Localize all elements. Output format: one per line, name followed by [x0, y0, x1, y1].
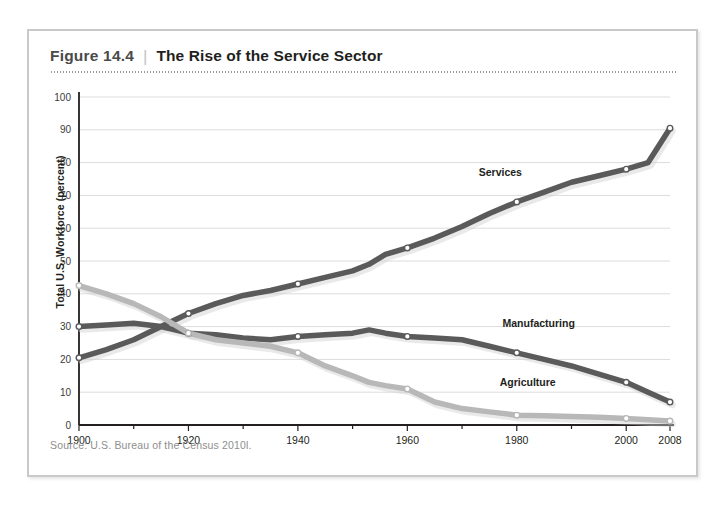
series-shadow-agriculture: [82, 289, 673, 424]
x-tick-label: 2008: [658, 434, 682, 446]
y-axis-title: Total U.S. Workforce (percent): [54, 137, 66, 327]
y-tick-label: 100: [54, 92, 71, 103]
data-point-marker: [514, 199, 520, 205]
chart-plot-area: Total U.S. Workforce (percent) 010203040…: [29, 31, 700, 479]
data-point-marker: [623, 380, 629, 386]
data-point-marker: [514, 412, 520, 418]
series-line-agriculture: [79, 286, 670, 421]
data-point-marker: [76, 324, 82, 330]
x-tick-label: 1940: [286, 434, 310, 446]
series-shadow-manufacturing: [82, 326, 673, 405]
data-point-marker: [667, 418, 673, 424]
data-point-marker: [76, 283, 82, 289]
data-point-marker: [405, 386, 411, 392]
data-point-marker: [295, 281, 301, 287]
data-point-marker: [76, 355, 82, 361]
data-point-marker: [295, 334, 301, 340]
y-tick-label: 90: [60, 124, 72, 135]
series-label-services: Services: [479, 166, 522, 178]
data-point-marker: [667, 125, 673, 131]
data-point-marker: [295, 350, 301, 356]
series-label-agriculture: Agriculture: [500, 376, 556, 388]
data-point-marker: [186, 311, 192, 317]
figure-panel: Figure 14.4 | The Rise of the Service Se…: [27, 29, 698, 477]
y-tick-label: 20: [60, 354, 72, 365]
source-note: Source: U.S. Bureau of the Census 2010l.: [50, 439, 252, 451]
data-point-marker: [405, 245, 411, 251]
x-tick-label: 1960: [396, 434, 420, 446]
x-tick-label: 1980: [505, 434, 529, 446]
y-tick-label: 0: [65, 420, 71, 431]
y-tick-label: 10: [60, 387, 72, 398]
series-label-manufacturing: Manufacturing: [502, 317, 574, 329]
data-point-marker: [623, 416, 629, 422]
data-point-marker: [405, 334, 411, 340]
data-point-marker: [186, 330, 192, 336]
line-chart-svg: 0102030405060708090100190019201940196019…: [29, 31, 700, 479]
x-tick-label: 2000: [615, 434, 639, 446]
data-point-marker: [667, 399, 673, 405]
data-point-marker: [514, 350, 520, 356]
data-point-marker: [623, 166, 629, 172]
